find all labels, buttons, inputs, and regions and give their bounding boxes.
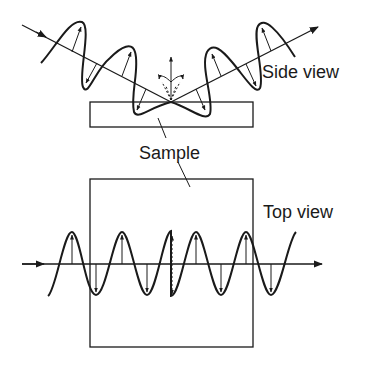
side-view-group: Side view — [22, 22, 340, 127]
local-field-dashed — [162, 82, 171, 100]
local-field-dashed — [171, 86, 176, 100]
polarization-vector-arrow — [137, 89, 146, 110]
side-view-label: Side view — [262, 62, 340, 82]
sample-leader-upper — [158, 118, 166, 138]
top-view-label: Top view — [263, 202, 334, 222]
polarization-vector-arrow — [122, 52, 131, 76]
sample-slab-side — [90, 102, 253, 127]
polarization-vector-arrow — [212, 54, 221, 76]
local-field-loop-right — [171, 76, 183, 82]
polarization-vector-arrow — [262, 28, 271, 51]
polarization-vector-arrow — [86, 63, 97, 83]
sample-label-group: Sample — [139, 118, 200, 187]
polarization-vector-arrow — [72, 27, 81, 52]
incident-beam-arrow — [36, 32, 46, 37]
polarization-reflection-diagram: Side view Sample Top view — [0, 0, 367, 366]
local-field-loop-left — [159, 76, 171, 82]
top-view-group: Top view — [22, 179, 334, 347]
local-field-dashed — [166, 86, 171, 100]
sample-label: Sample — [139, 143, 200, 163]
polarization-vector-arrow — [196, 89, 205, 110]
local-field-dashed — [171, 82, 180, 100]
sample-leader-lower — [178, 162, 190, 187]
